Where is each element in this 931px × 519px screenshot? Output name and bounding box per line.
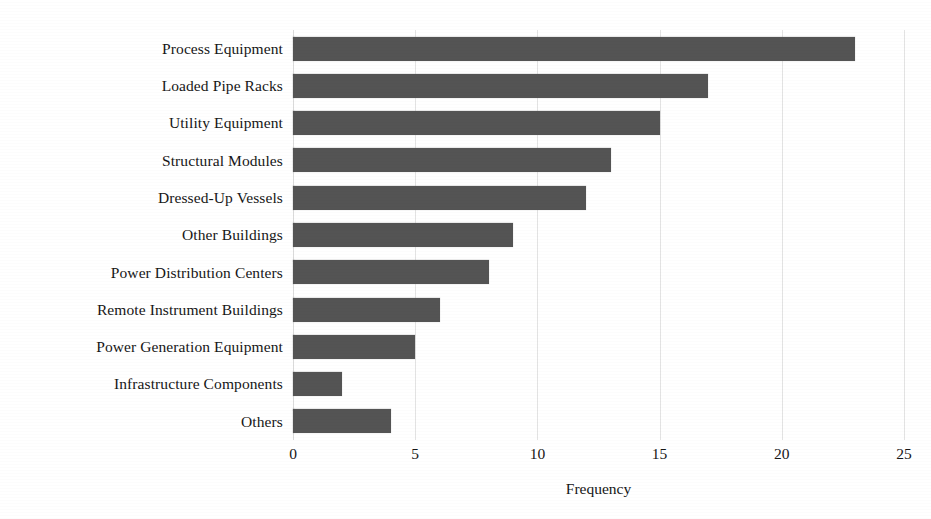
bar [293,186,586,210]
gridline-x-25 [904,30,905,440]
bar [293,298,440,322]
bar [293,335,415,359]
category-label: Dressed-Up Vessels [0,179,283,216]
bar [293,111,660,135]
category-label: Infrastructure Components [0,365,283,402]
bar-row [293,30,904,67]
category-label: Power Distribution Centers [0,254,283,291]
bar [293,409,391,433]
bar [293,148,611,172]
bar [293,372,342,396]
x-tick-label: 0 [289,446,297,462]
bars-layer [293,30,904,440]
category-label: Process Equipment [0,30,283,67]
category-label: Loaded Pipe Racks [0,67,283,104]
x-axis-title: Frequency [293,481,904,497]
bar-row [293,365,904,402]
x-tick-label: 20 [774,446,790,462]
bar-row [293,142,904,179]
category-label: Others [0,403,283,440]
bar-row [293,328,904,365]
bar-row [293,216,904,253]
bar [293,37,855,61]
x-tick-label: 10 [530,446,546,462]
bar [293,223,513,247]
bar-row [293,291,904,328]
bar [293,260,489,284]
bar-row [293,67,904,104]
category-axis-labels: Process EquipmentLoaded Pipe RacksUtilit… [0,30,283,440]
bar-chart-figure: Process EquipmentLoaded Pipe RacksUtilit… [0,0,931,519]
category-label: Structural Modules [0,142,283,179]
x-axis-tick-labels: 0510152025 [293,446,904,470]
x-tick-label: 25 [896,446,912,462]
category-label: Other Buildings [0,216,283,253]
x-tick-label: 5 [411,446,419,462]
x-tick-label: 15 [652,446,668,462]
category-label: Remote Instrument Buildings [0,291,283,328]
bar-row [293,254,904,291]
bar-row [293,403,904,440]
category-label: Power Generation Equipment [0,328,283,365]
plot-area [293,30,904,440]
bar-row [293,179,904,216]
bar [293,74,708,98]
category-label: Utility Equipment [0,105,283,142]
bar-row [293,105,904,142]
